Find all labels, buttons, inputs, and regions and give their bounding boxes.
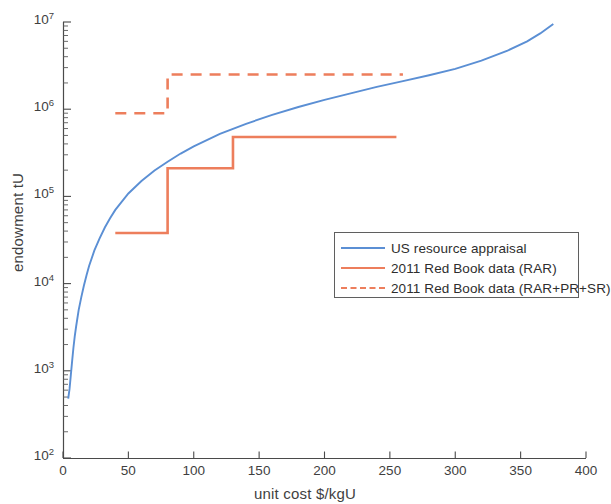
- legend-swatch-dashed-icon: [341, 281, 385, 295]
- series-line-1: [68, 24, 553, 399]
- legend-item-2[interactable]: 2011 Red Book data (RAR): [335, 257, 578, 279]
- x-tick-label: 350: [496, 463, 546, 478]
- y-axis-label: endowment tU: [9, 158, 26, 288]
- x-tick-label: 0: [38, 463, 88, 478]
- legend-label: 2011 Red Book data (RAR): [391, 261, 557, 276]
- x-axis-ticks: [63, 452, 586, 459]
- x-tick-label: 150: [234, 463, 284, 478]
- y-tick-label: 102: [8, 448, 54, 463]
- legend-item-1[interactable]: US resource appraisal: [335, 237, 578, 259]
- series-line-3: [115, 75, 403, 114]
- chart-legend: US resource appraisal2011 Red Book data …: [334, 232, 579, 298]
- series-layer: [68, 24, 553, 399]
- x-tick-label: 250: [365, 463, 415, 478]
- legend-swatch-solid-icon: [341, 261, 385, 275]
- x-axis-label: unit cost $/kgU: [0, 485, 610, 502]
- y-tick-label: 107: [8, 12, 54, 27]
- legend-label: US resource appraisal: [391, 241, 527, 256]
- y-tick-label: 103: [8, 361, 54, 376]
- x-tick-label: 300: [430, 463, 480, 478]
- legend-swatch-solid-icon: [341, 241, 385, 255]
- x-tick-label: 50: [103, 463, 153, 478]
- y-tick-label: 106: [8, 99, 54, 114]
- legend-label: 2011 Red Book data (RAR+PR+SR): [391, 281, 611, 296]
- series-line-2: [115, 137, 396, 233]
- x-tick-label: 200: [300, 463, 350, 478]
- x-tick-label: 100: [169, 463, 219, 478]
- x-tick-label: 400: [561, 463, 611, 478]
- legend-item-3[interactable]: 2011 Red Book data (RAR+PR+SR): [335, 277, 578, 299]
